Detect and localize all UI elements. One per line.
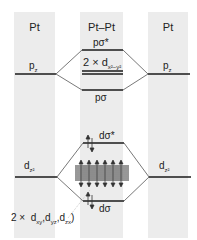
label-right-pz: pz	[163, 60, 172, 73]
label-prefix: 2 ×	[11, 212, 25, 223]
label-left-pz: pz	[29, 60, 38, 73]
label-d-sigma: dσ	[99, 203, 111, 214]
label-p-sigma-star: pσ*	[93, 37, 109, 48]
label-sub: z²	[165, 167, 170, 173]
label-sub: z²	[30, 167, 35, 173]
label-right-dz2: dz²	[159, 160, 170, 173]
label-d-band: 2 × dxy,dyz,dzx)	[11, 212, 74, 225]
label-sub: z	[35, 67, 38, 73]
label-close: )	[71, 212, 74, 223]
label-dx2y2: 2 × dx²−y²	[83, 56, 121, 70]
label-p-sigma: pσ	[95, 92, 107, 103]
label-d-sigma-star: dσ*	[99, 130, 115, 141]
label-text: 2 × d	[83, 56, 108, 68]
label-sub: x²−y²	[108, 64, 122, 70]
label-left-dz2: dz²	[24, 160, 35, 173]
label-sub: z	[169, 67, 172, 73]
